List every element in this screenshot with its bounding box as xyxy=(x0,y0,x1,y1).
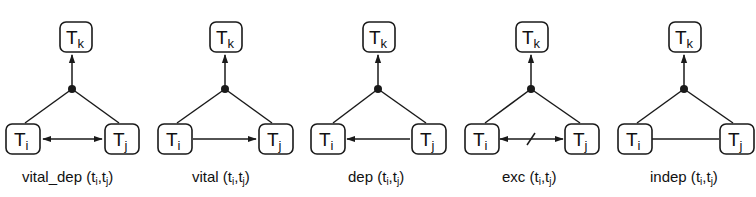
caption-vital-dep: vital_dep (ti,tj) xyxy=(22,168,113,187)
diagram-dep: Tk Ti Tj dep (ti,tj) xyxy=(311,22,446,187)
node-tk: Tk xyxy=(516,22,548,52)
caption-exc: exc (ti,tj) xyxy=(502,168,557,187)
junction-dot-icon xyxy=(68,85,76,93)
task-relation-figure: Tk Ti Tj vital_dep (ti,tj) Tk Ti Tj xyxy=(0,0,756,197)
edge-tj-to-junction xyxy=(684,89,733,123)
node-ti: Ti xyxy=(6,124,40,154)
caption-indep: indep (ti,tj) xyxy=(650,168,718,187)
edge-tj-to-junction xyxy=(531,89,580,123)
edge-ti-to-junction xyxy=(637,89,684,123)
edge-ti-to-junction xyxy=(485,89,531,123)
node-tj: Tj xyxy=(259,124,293,154)
edge-ti-to-junction xyxy=(333,89,378,123)
node-tj: Tj xyxy=(412,124,446,154)
junction-dot-icon xyxy=(374,85,382,93)
node-ti: Ti xyxy=(465,124,499,154)
node-tk: Tk xyxy=(210,22,242,52)
diagram-exc: Tk Ti Tj exc (ti,tj) xyxy=(465,22,599,187)
node-ti: Ti xyxy=(618,124,652,154)
node-tk: Tk xyxy=(60,22,92,52)
diagram-vital-dep: Tk Ti Tj vital_dep (ti,tj) xyxy=(6,22,139,187)
edge-ti-to-junction xyxy=(25,89,72,123)
edge-tj-to-junction xyxy=(378,89,426,123)
caption-dep: dep (ti,tj) xyxy=(348,168,404,187)
node-ti: Ti xyxy=(158,124,192,154)
node-tk: Tk xyxy=(669,22,701,52)
edge-ti-to-junction xyxy=(177,89,225,123)
diagram-indep: Tk Ti Tj indep (ti,tj) xyxy=(618,22,754,187)
node-ti: Ti xyxy=(311,124,345,154)
edge-tj-to-junction xyxy=(225,89,272,123)
junction-dot-icon xyxy=(680,85,688,93)
junction-dot-icon xyxy=(221,85,229,93)
edge-tj-to-junction xyxy=(72,89,119,123)
node-tj: Tj xyxy=(565,124,599,154)
node-tk: Tk xyxy=(363,22,395,52)
node-tj: Tj xyxy=(105,124,139,154)
diagram-vital: Tk Ti Tj vital (ti,tj) xyxy=(158,22,293,187)
node-tj: Tj xyxy=(720,124,754,154)
junction-dot-icon xyxy=(527,85,535,93)
caption-vital: vital (ti,tj) xyxy=(192,168,250,187)
